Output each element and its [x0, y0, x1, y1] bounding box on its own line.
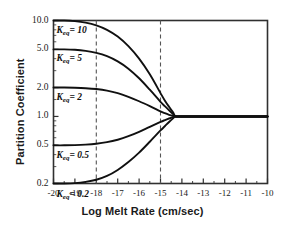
curve-label-value: = 5 — [69, 53, 82, 63]
curve-label-keq-5: Keq= 5 — [57, 53, 83, 65]
y-axis-title: Partition Coefficient — [14, 58, 26, 165]
y-tick-label: 10.0 — [27, 15, 49, 25]
x-tick-label: -14 — [171, 188, 193, 198]
y-tick-label: 5.0 — [27, 43, 49, 53]
curve-label-value: = 0.5 — [69, 150, 89, 160]
curve-label-keq-0-5: Keq= 0.5 — [57, 150, 90, 162]
x-tick-label: -10 — [257, 188, 279, 198]
x-tick-label: -16 — [128, 188, 150, 198]
x-tick-label: -12 — [214, 188, 236, 198]
curve-label-value: = 0.2 — [69, 189, 89, 199]
x-tick-label: -13 — [192, 188, 214, 198]
y-tick-label: 2.0 — [27, 82, 49, 92]
y-tick-label: 1.0 — [27, 110, 49, 120]
x-axis-title: Log Melt Rate (cm/sec) — [0, 205, 285, 217]
curve-label-keq-2: Keq= 2 — [57, 92, 83, 104]
x-tick-label: -11 — [235, 188, 257, 198]
curve-label-keq-0-2: Keq= 0.2 — [57, 189, 90, 201]
chart-figure: 10.05.02.01.00.50.2 -20-19-18-17-16-15-1… — [0, 0, 285, 227]
x-tick-label: -15 — [150, 188, 172, 198]
curve-label-value: = 10 — [69, 25, 86, 35]
y-tick-label: 0.2 — [27, 178, 49, 188]
y-tick-label: 0.5 — [27, 139, 49, 149]
curve-label-value: = 2 — [69, 92, 82, 102]
x-tick-label: -17 — [107, 188, 129, 198]
curve-label-keq-10: Keq= 10 — [57, 25, 87, 37]
